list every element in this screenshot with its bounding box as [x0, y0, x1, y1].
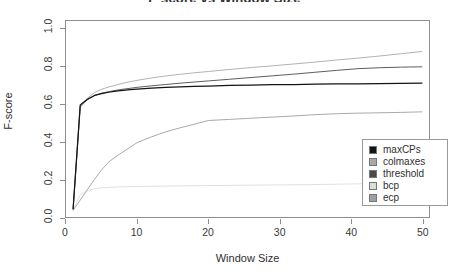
legend-swatch-icon — [369, 182, 377, 190]
x-tick-mark — [137, 219, 138, 224]
legend-swatch-icon — [369, 170, 377, 178]
y-tick-label: 0.2 — [0, 172, 56, 184]
legend-item-maxCPs[interactable]: maxCPs — [369, 144, 447, 156]
x-axis-title: Window Size — [65, 252, 430, 264]
legend-item-label: bcp — [383, 180, 399, 192]
legend-swatch-icon — [369, 194, 377, 202]
legend-item-label: ecp — [383, 192, 399, 204]
x-tick-label: 0 — [50, 226, 80, 238]
chart-title: F-score vs Window Size — [0, 0, 449, 2]
x-tick-mark — [65, 219, 66, 224]
x-tick-mark — [208, 219, 209, 224]
x-tick-label: 40 — [336, 226, 366, 238]
legend-item-label: colmaxes — [383, 156, 425, 168]
legend-swatch-icon — [369, 158, 377, 166]
x-tick-label: 50 — [408, 226, 438, 238]
chart-legend[interactable]: maxCPscolmaxesthresholdbcpecp — [362, 139, 448, 206]
y-tick-label: 1.0 — [0, 20, 56, 32]
y-tick-label: 0.8 — [0, 58, 56, 70]
legend-item-bcp[interactable]: bcp — [369, 180, 447, 192]
legend-item-ecp[interactable]: ecp — [369, 192, 447, 204]
chart-figure: F-score vs Window Size F-score 0.00.20.4… — [0, 0, 449, 279]
x-tick-mark — [351, 219, 352, 224]
y-tick-label: 0.4 — [0, 134, 56, 146]
legend-item-label: maxCPs — [383, 144, 421, 156]
x-tick-label: 30 — [265, 226, 295, 238]
x-tick-mark — [280, 219, 281, 224]
y-tick-label: 0.0 — [0, 210, 56, 222]
legend-swatch-icon — [369, 146, 377, 154]
x-tick-label: 10 — [122, 226, 152, 238]
x-tick-label: 20 — [193, 226, 223, 238]
legend-item-label: threshold — [383, 168, 424, 180]
legend-item-threshold[interactable]: threshold — [369, 168, 447, 180]
legend-item-colmaxes[interactable]: colmaxes — [369, 156, 447, 168]
y-tick-label: 0.6 — [0, 96, 56, 108]
y-axis-title: F-score — [2, 81, 14, 141]
x-tick-mark — [423, 219, 424, 224]
